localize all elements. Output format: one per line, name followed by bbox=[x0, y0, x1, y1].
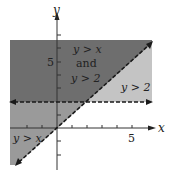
y-tick-label-5: 5 bbox=[47, 56, 54, 69]
inequality-graph: y x 5 5 y > x and y > 2 y > 2 y > x bbox=[0, 0, 172, 179]
region-label-both-line1: y > x bbox=[72, 43, 102, 56]
graph-canvas: y x 5 5 y > x and y > 2 y > 2 y > x bbox=[0, 0, 172, 179]
x-axis-label: x bbox=[158, 121, 165, 135]
region-label-both-line3: y > 2 bbox=[70, 72, 100, 85]
region-label-y-gt-x: y > x bbox=[12, 132, 42, 145]
y-axis-label: y bbox=[52, 3, 60, 17]
region-label-both-line2: and bbox=[76, 57, 97, 70]
region-label-y-gt-2: y > 2 bbox=[120, 81, 150, 94]
x-tick-label-5: 5 bbox=[128, 132, 135, 145]
